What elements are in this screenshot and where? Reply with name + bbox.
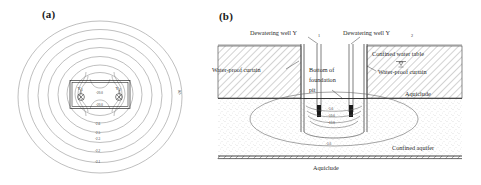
- contour-label-outer-3: -2.3: [95, 137, 101, 141]
- dewatering-well-casing-y2: [349, 44, 353, 117]
- panel-b: (b): [200, 0, 481, 185]
- well-label-y2: Y: [116, 86, 119, 91]
- drawdown-label-3: -15.0: [328, 121, 335, 125]
- contour-label-outer-1: -2.6: [95, 122, 101, 126]
- contour-label-inner-top: -20.0: [96, 91, 103, 95]
- panel-b-cross-section: -5.0 -10.0 -15.0 -5.0 Dewatering well Y …: [200, 0, 481, 185]
- label-bottom-of-pit-line1: Bottom of: [309, 66, 335, 73]
- label-water-proof-curtain-right: Water-proof curtain: [378, 68, 427, 75]
- leader-line-pit-bottom: [332, 90, 342, 98]
- label-aquiclude-upper: Aquiclude: [405, 90, 431, 97]
- contour-label-outer-4: -2.2: [95, 149, 101, 153]
- contour-ring-outer-4: [48, 48, 152, 143]
- leader-line-y2: [351, 37, 360, 44]
- label-dewatering-well-y2: Dewatering well Y: [343, 29, 390, 36]
- contour-label-outer-2: -2.5: [95, 131, 101, 135]
- label-dewatering-well-y1: Dewatering well Y: [250, 29, 297, 36]
- label-dewatering-well-y1-subscript: 1: [318, 33, 320, 38]
- drawdown-label-2: -10.0: [328, 114, 335, 118]
- well-label-y1-subscript: 1: [81, 88, 83, 92]
- contour-ring-outer-3: [38, 39, 162, 153]
- panel-a: (a): [0, 0, 210, 185]
- label-bottom-of-pit-line3: pit: [309, 86, 316, 93]
- label-dewatering-well-y2-subscript: 2: [411, 33, 413, 38]
- drawdown-label-4: -5.0: [326, 142, 332, 146]
- aquiclude-lower-band: [218, 156, 463, 159]
- figure-container: (a): [0, 0, 481, 185]
- label-aquiclude-lower: Aquiclude: [313, 164, 339, 171]
- label-water-proof-curtain-left: Water-proof curtain: [212, 66, 261, 73]
- panel-a-contour-plot: Y 1 Y 2 -20.0 -20.0 -2.6 -2.5 -2.3 -2.2 …: [0, 0, 210, 185]
- contour-label-outer-5: -2.1: [95, 160, 101, 164]
- contour-label-inner-bottom: -20.0: [96, 103, 103, 107]
- well-label-y1: Y: [78, 86, 81, 91]
- drawdown-label-1: -5.0: [328, 107, 334, 111]
- leader-line-y1: [308, 37, 318, 44]
- label-bottom-of-pit-line2: foundation: [309, 76, 336, 83]
- label-confined-water-table: Confined water table: [372, 50, 424, 57]
- contour-label-edge: -2.0: [178, 89, 182, 95]
- label-confined-aquifer: Confined aquifer: [392, 144, 434, 151]
